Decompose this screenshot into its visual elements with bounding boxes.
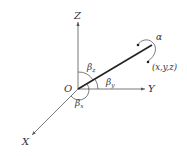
y-axis-label: Y bbox=[148, 83, 156, 94]
origin-label: O bbox=[64, 83, 72, 94]
rotation-start-dot bbox=[137, 44, 140, 47]
x-axis-label: X bbox=[21, 136, 30, 147]
rotation-arc bbox=[138, 40, 155, 61]
rotation-alpha-label: α bbox=[156, 32, 162, 42]
z-axis-label: Z bbox=[73, 10, 82, 21]
coordinate-diagram: Z Y X O βz βy βx α (x,y,z) bbox=[0, 0, 187, 156]
x-axis bbox=[32, 89, 78, 135]
beta-z-label: βz bbox=[86, 62, 96, 73]
point-dot bbox=[147, 61, 150, 64]
angle-arc-z bbox=[78, 72, 93, 80]
angle-arc-y bbox=[95, 79, 98, 89]
beta-y-label: βy bbox=[105, 77, 115, 89]
point-coordinates-label: (x,y,z) bbox=[152, 62, 177, 72]
